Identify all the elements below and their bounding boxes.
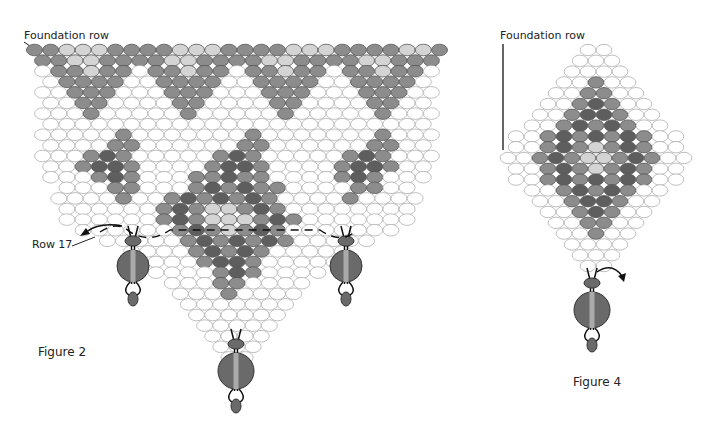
- bead: [310, 256, 326, 268]
- bead: [676, 152, 692, 163]
- bead: [532, 109, 548, 120]
- bead: [604, 120, 620, 131]
- bead: [91, 171, 107, 183]
- bead: [596, 196, 612, 207]
- bead: [318, 118, 334, 130]
- bead: [351, 118, 367, 130]
- bead: [245, 193, 261, 205]
- bead: [628, 152, 644, 163]
- bead: [148, 65, 164, 77]
- bead: [261, 129, 277, 141]
- bead: [367, 224, 383, 236]
- bead: [116, 193, 132, 205]
- bead: [172, 171, 188, 183]
- bead: [213, 341, 229, 353]
- bead: [367, 44, 383, 56]
- bead: [164, 55, 180, 67]
- bead: [596, 44, 612, 55]
- bead: [524, 120, 540, 131]
- bead: [612, 152, 628, 163]
- bead: [359, 87, 375, 99]
- bead: [270, 309, 286, 321]
- bead: [156, 214, 172, 226]
- bead: [415, 44, 431, 56]
- bead: [132, 129, 148, 141]
- bead: [524, 174, 540, 185]
- bead: [91, 182, 107, 194]
- bead: [407, 129, 423, 141]
- bead: [59, 161, 75, 173]
- bead: [67, 87, 83, 99]
- bead: [164, 235, 180, 247]
- bead: [253, 309, 269, 321]
- bead: [270, 97, 286, 109]
- bead: [91, 161, 107, 173]
- bead: [399, 140, 415, 152]
- bead: [237, 203, 253, 215]
- bead: [628, 88, 644, 99]
- bead: [540, 120, 556, 131]
- bead: [140, 118, 156, 130]
- bead: [229, 267, 245, 279]
- bead: [229, 129, 245, 141]
- bead: [351, 182, 367, 194]
- bead: [652, 163, 668, 174]
- bead: [620, 98, 636, 109]
- bead: [367, 97, 383, 109]
- bead: [556, 142, 572, 153]
- bead: [172, 118, 188, 130]
- bead: [278, 65, 294, 77]
- bead: [564, 239, 580, 250]
- bead: [399, 161, 415, 173]
- bead: [612, 196, 628, 207]
- bead: [237, 246, 253, 258]
- bead: [261, 235, 277, 247]
- bead: [229, 193, 245, 205]
- bead: [620, 185, 636, 196]
- bead: [99, 193, 115, 205]
- bead: [415, 118, 431, 130]
- figure2-beadwork: [27, 44, 448, 363]
- bead: [391, 150, 407, 162]
- bead: [108, 44, 124, 56]
- bead: [180, 87, 196, 99]
- bead: [229, 65, 245, 77]
- bead: [132, 87, 148, 99]
- bead: [359, 235, 375, 247]
- bead: [367, 118, 383, 130]
- bead: [35, 108, 51, 120]
- bead: [253, 76, 269, 88]
- bead: [399, 182, 415, 194]
- bead: [245, 108, 261, 120]
- bead: [302, 44, 318, 56]
- bead: [367, 203, 383, 215]
- bead: [391, 55, 407, 67]
- bead: [116, 129, 132, 141]
- bead: [189, 182, 205, 194]
- bead: [205, 246, 221, 258]
- bead: [229, 87, 245, 99]
- bead: [108, 171, 124, 183]
- bead: [310, 193, 326, 205]
- bead: [652, 185, 668, 196]
- bead: [99, 65, 115, 77]
- bead: [432, 44, 448, 56]
- bead: [334, 203, 350, 215]
- bead: [245, 235, 261, 247]
- bead: [140, 76, 156, 88]
- bead: [556, 131, 572, 142]
- bead: [556, 98, 572, 109]
- bead: [572, 185, 588, 196]
- bead: [132, 108, 148, 120]
- bead: [604, 250, 620, 261]
- bead: [140, 171, 156, 183]
- bead: [286, 76, 302, 88]
- bead: [140, 140, 156, 152]
- bead: [164, 267, 180, 279]
- bead: [532, 152, 548, 163]
- bead: [294, 267, 310, 279]
- bead: [556, 228, 572, 239]
- bead: [75, 171, 91, 183]
- bead: [286, 161, 302, 173]
- bead: [326, 55, 342, 67]
